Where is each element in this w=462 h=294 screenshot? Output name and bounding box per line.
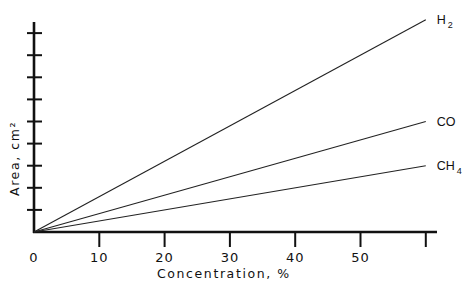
x-tick-labels: 01020304050 — [29, 250, 369, 265]
chart: 01020304050 H2COCH4 Concentration, % Are… — [0, 0, 462, 294]
series-labels: H2COCH4 — [437, 13, 462, 176]
series-line-ch4 — [34, 166, 426, 232]
series-lines — [34, 20, 426, 232]
x-tick-label: 40 — [286, 250, 305, 265]
series-line-h2 — [34, 20, 426, 232]
series-label-co: CO — [437, 115, 456, 129]
x-tick-label: 0 — [29, 250, 38, 265]
plot-area: 01020304050 H2COCH4 — [27, 13, 462, 265]
x-tick-label: 20 — [155, 250, 174, 265]
series-label-ch4: CH4 — [437, 159, 462, 176]
x-ticks — [99, 232, 426, 247]
x-tick-label: 50 — [351, 250, 370, 265]
y-axis-title: Area, cm² — [7, 121, 22, 196]
x-tick-label: 30 — [221, 250, 240, 265]
series-label-h2: H2 — [437, 13, 453, 30]
x-tick-label: 10 — [90, 250, 109, 265]
x-axis-title: Concentration, % — [157, 266, 291, 281]
series-line-co — [34, 122, 426, 233]
